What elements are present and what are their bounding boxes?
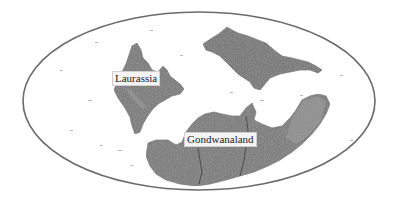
supercontinent-map: Laurassia Gondwanaland [0,0,396,203]
label-gondwanaland: Gondwanaland [184,132,257,147]
map-canvas [0,0,396,203]
label-laurassia: Laurassia [112,71,160,86]
